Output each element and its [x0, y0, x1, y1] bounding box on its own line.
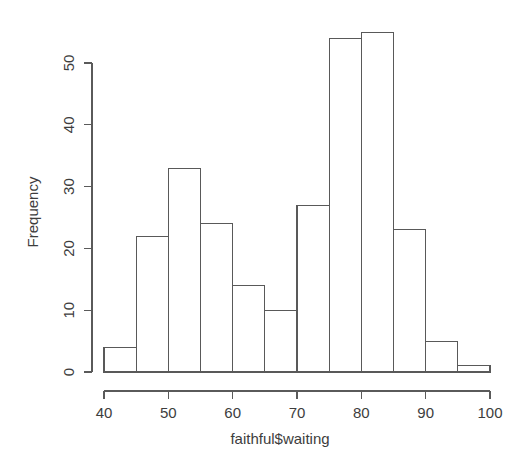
histogram-bar — [394, 230, 426, 372]
x-axis-tick-label: 100 — [477, 404, 502, 421]
x-axis — [104, 391, 490, 399]
plot-canvas: 01020304050 405060708090100 faithful$wai… — [0, 0, 523, 474]
x-axis-tick-label: 60 — [224, 404, 241, 421]
x-axis-tick-label: 90 — [417, 404, 434, 421]
y-axis-tick-label: 0 — [60, 368, 77, 376]
histogram-bar — [233, 285, 265, 372]
x-axis-tick-labels: 405060708090100 — [96, 404, 503, 421]
y-axis-tick-label: 10 — [60, 302, 77, 319]
y-axis-ticks — [84, 63, 92, 372]
histogram-bar — [265, 310, 297, 372]
y-axis-tick-label: 20 — [60, 240, 77, 257]
histogram-plot: 01020304050 405060708090100 faithful$wai… — [0, 0, 523, 474]
x-axis-tick-label: 80 — [353, 404, 370, 421]
histogram-bar — [104, 347, 136, 372]
y-axis — [84, 63, 92, 372]
x-axis-title: faithful$waiting — [230, 430, 329, 447]
x-axis-tick-label: 70 — [289, 404, 306, 421]
x-axis-ticks — [104, 391, 490, 399]
y-axis-tick-label: 30 — [60, 178, 77, 195]
y-axis-tick-labels: 01020304050 — [60, 55, 77, 377]
histogram-bar — [168, 168, 200, 372]
histogram-bar — [136, 236, 168, 372]
histogram-bar — [201, 224, 233, 372]
y-axis-title: Frequency — [24, 176, 41, 247]
histogram-bar — [329, 38, 361, 372]
histogram-bar — [426, 341, 458, 372]
y-axis-tick-label: 50 — [60, 55, 77, 72]
x-axis-tick-label: 40 — [96, 404, 113, 421]
histogram-bar — [361, 32, 393, 372]
histogram-bar — [297, 205, 329, 372]
histogram-bar — [458, 366, 490, 372]
y-axis-tick-label: 40 — [60, 116, 77, 133]
histogram-bars — [104, 32, 490, 372]
x-axis-tick-label: 50 — [160, 404, 177, 421]
